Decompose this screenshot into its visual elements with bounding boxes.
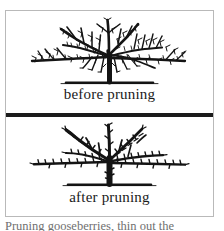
gooseberry-bush-pruned-illustration [6, 118, 213, 190]
pruned-bush-drawing [6, 118, 213, 190]
panel-before-pruning: before pruning [6, 11, 213, 113]
figure-root: before pruning [0, 0, 224, 231]
gooseberry-bush-unpruned-illustration [6, 11, 213, 87]
body-text-line: Pruning gooseberries, thin out the [5, 219, 219, 231]
figure-frame: before pruning [5, 10, 214, 217]
caption-before-pruning: before pruning [6, 85, 213, 103]
unpruned-bush-drawing [6, 11, 213, 87]
panel-after-pruning: after pruning [6, 118, 213, 218]
panel-divider [6, 113, 213, 117]
caption-after-pruning: after pruning [6, 188, 213, 206]
